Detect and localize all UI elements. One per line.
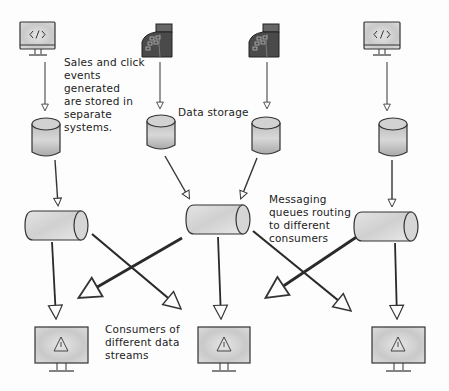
database-icon bbox=[147, 115, 175, 149]
alert-monitor-icon bbox=[372, 327, 425, 371]
annotation-consumers: Consumers of different data streams bbox=[105, 323, 180, 362]
edge-db1-queue1 bbox=[55, 160, 58, 205]
annotation-queues: Messaging queues routing to different co… bbox=[269, 193, 351, 245]
edge-queue1-consumer2 bbox=[92, 234, 180, 308]
edge-queue3-consumer3 bbox=[395, 243, 397, 318]
alert-monitor-icon bbox=[198, 327, 250, 371]
cash-register-icon bbox=[249, 24, 279, 57]
consumer-3[interactable] bbox=[372, 327, 425, 371]
alert-monitor-icon bbox=[35, 327, 88, 371]
queue-2[interactable] bbox=[186, 205, 250, 234]
message-queue-icon bbox=[186, 205, 250, 234]
cash-register-icon bbox=[142, 24, 172, 57]
edge-queue3-consumer2 bbox=[267, 236, 358, 297]
message-queue-icon bbox=[354, 212, 418, 241]
db-2[interactable] bbox=[147, 115, 175, 149]
edge-queue2-consumer1 bbox=[80, 238, 182, 297]
queue-1[interactable] bbox=[25, 211, 88, 240]
edge-db3-queue2 bbox=[241, 158, 257, 198]
edge-queue2-consumer2 bbox=[218, 237, 221, 318]
database-icon bbox=[252, 117, 280, 154]
web-app-monitor-icon bbox=[20, 22, 55, 55]
source-1[interactable] bbox=[20, 22, 55, 55]
source-2[interactable] bbox=[142, 24, 172, 57]
source-3[interactable] bbox=[249, 24, 279, 57]
consumer-2[interactable] bbox=[198, 327, 250, 371]
message-queue-icon bbox=[25, 211, 88, 240]
db-4[interactable] bbox=[379, 118, 407, 156]
edge-db2-queue2 bbox=[165, 156, 189, 198]
db-1[interactable] bbox=[32, 118, 60, 156]
queue-3[interactable] bbox=[354, 212, 418, 241]
database-icon bbox=[32, 118, 60, 156]
web-app-monitor-icon bbox=[364, 22, 400, 55]
edge-queue1-consumer1 bbox=[52, 242, 56, 318]
annotation-sources: Sales and click events generated are sto… bbox=[64, 56, 145, 134]
database-icon bbox=[379, 118, 407, 156]
consumer-1[interactable] bbox=[35, 327, 88, 371]
annotation-storage: Data storage bbox=[178, 106, 249, 119]
source-4[interactable] bbox=[364, 22, 400, 55]
db-3[interactable] bbox=[252, 117, 280, 154]
